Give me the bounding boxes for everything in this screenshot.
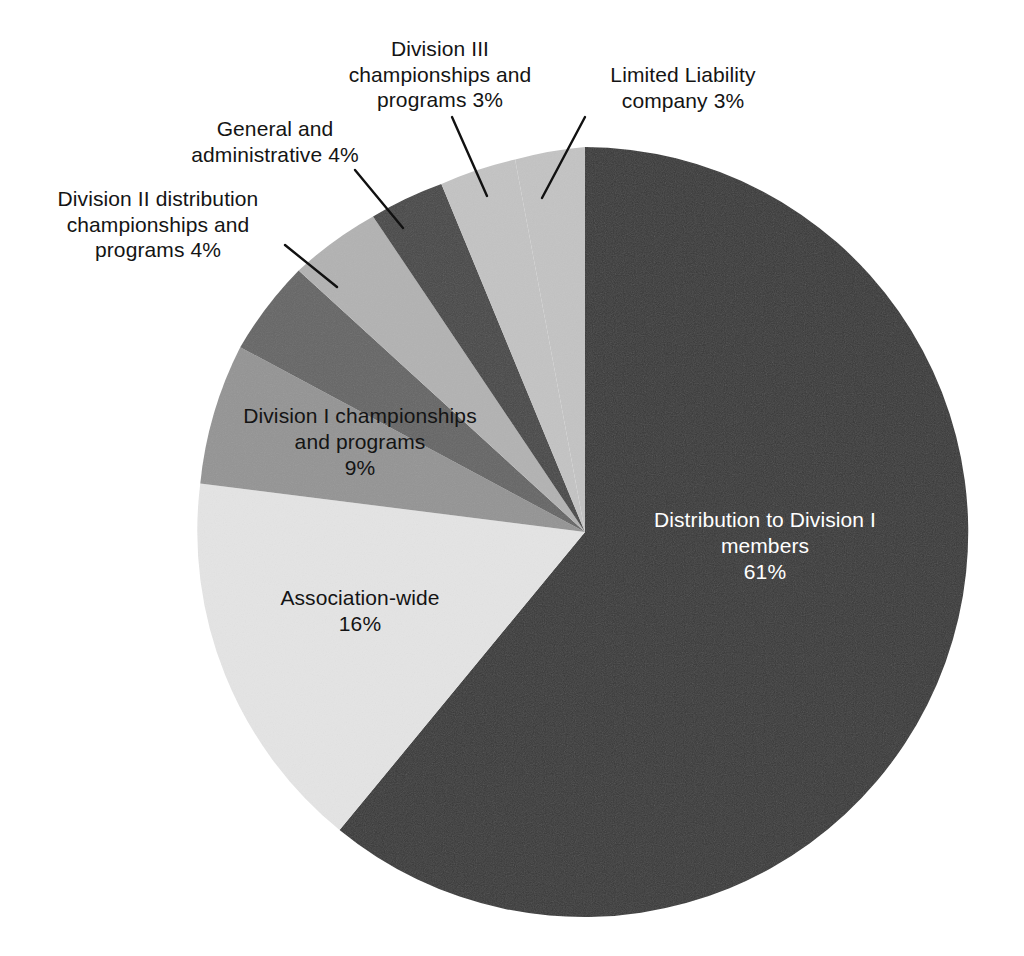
- callout-label-division2-distribution: Division II distribution championships a…: [28, 186, 288, 263]
- pie-chart-figure: Division III championships and programs …: [0, 0, 1024, 956]
- callout-label-general-administrative: General and administrative 4%: [180, 116, 370, 167]
- pie-chart-svg: [0, 0, 1024, 956]
- callout-label-limited-liability: Limited Liability company 3%: [578, 62, 788, 113]
- callout-label-division3-championships: Division III championships and programs …: [330, 36, 550, 113]
